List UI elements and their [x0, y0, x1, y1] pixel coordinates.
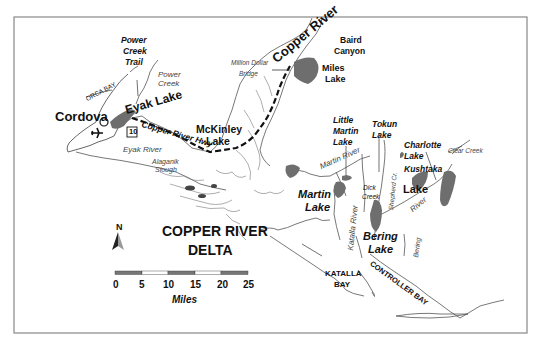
label-power-creek-1: Power	[158, 71, 181, 79]
label-kushtaka-lake-2: Lake	[403, 184, 428, 195]
label-tokun-lake-1: Tokun	[372, 120, 397, 129]
label-miles-lake-1: Miles	[322, 64, 345, 73]
label-baird-canyon-2: Canyon	[334, 47, 365, 56]
scale-tick-25: 25	[243, 280, 254, 290]
label-martin-lake-1: Martin	[298, 189, 331, 200]
label-bering-lake-1: Bering	[363, 231, 398, 242]
label-alaganik-slough-1: Alaganik	[152, 158, 179, 165]
label-little-martin-lake-2: Martin	[333, 127, 359, 136]
label-power-creek-2: Creek	[158, 80, 179, 88]
scale-tick-15: 15	[190, 280, 201, 290]
label-million-dollar-bridge-1: Million Dollar	[231, 60, 268, 67]
label-dick-creek-2: Creek	[362, 194, 379, 201]
label-clear-creek: Clear Creek	[448, 148, 483, 155]
label-katalla-bay-1: KATALLA	[325, 270, 362, 278]
coast-katalla	[270, 236, 318, 268]
scale-bar	[115, 271, 248, 275]
label-charlotte-lake-1: Charlotte	[404, 141, 441, 150]
scale-tick-10: 10	[163, 280, 174, 290]
label-little-martin-lake-1: Little	[333, 116, 353, 125]
north-arrow-icon	[112, 232, 124, 250]
airport-icon	[91, 128, 103, 138]
coast-south-west	[76, 152, 226, 190]
clear-creek-lake-shape	[440, 171, 456, 207]
controller-bay-shore	[370, 254, 504, 318]
label-cordova: Cordova	[55, 110, 108, 123]
map-title-line2: DELTA	[188, 243, 233, 257]
label-eyak-river: Eyak River	[123, 146, 162, 154]
little-martin-shape	[342, 175, 352, 180]
miles-lake-shape	[294, 58, 319, 85]
delta-dark-patches	[185, 184, 217, 198]
scale-tick-5: 5	[139, 280, 145, 290]
scale-unit: Miles	[172, 295, 197, 305]
label-power-creek-trail-1: Power	[121, 36, 147, 45]
kayak-island	[396, 313, 468, 318]
label-bering-lake-2: Lake	[368, 244, 393, 255]
label-power-creek-trail-3: Trail	[125, 58, 143, 67]
label-tokun-lake-2: Lake	[372, 131, 391, 140]
map-title-line1: COPPER RIVER	[162, 224, 268, 238]
north-label: N	[116, 223, 123, 232]
label-mckinley-lake-1: McKinley	[196, 124, 242, 135]
bering-lake-shape	[370, 200, 382, 232]
scale-tick-0: 0	[113, 280, 119, 290]
label-martin-lake-2: Lake	[305, 202, 330, 213]
label-baird-canyon-1: Baird	[340, 36, 362, 45]
label-katalla-bay-2: BAY	[334, 281, 350, 289]
label-million-dollar-bridge-2: Bridge	[239, 71, 258, 78]
label-charlotte-lake-2: Lake	[404, 152, 423, 161]
coast-delta-east	[260, 218, 330, 230]
label-power-creek-trail-2: Creek	[123, 47, 147, 56]
scale-tick-20: 20	[217, 280, 228, 290]
west-lake-shape	[286, 164, 301, 178]
label-highway-number: 10	[129, 128, 137, 136]
label-dick-creek-1: Dick	[363, 185, 376, 192]
label-miles-lake-2: Lake	[325, 75, 346, 84]
label-little-martin-lake-3: Lake	[333, 138, 352, 147]
martin-lake-shape	[334, 182, 347, 198]
label-kushtaka-lake-1: Kushtaka	[404, 165, 442, 174]
label-alaganik-slough-2: Slough	[155, 166, 177, 173]
